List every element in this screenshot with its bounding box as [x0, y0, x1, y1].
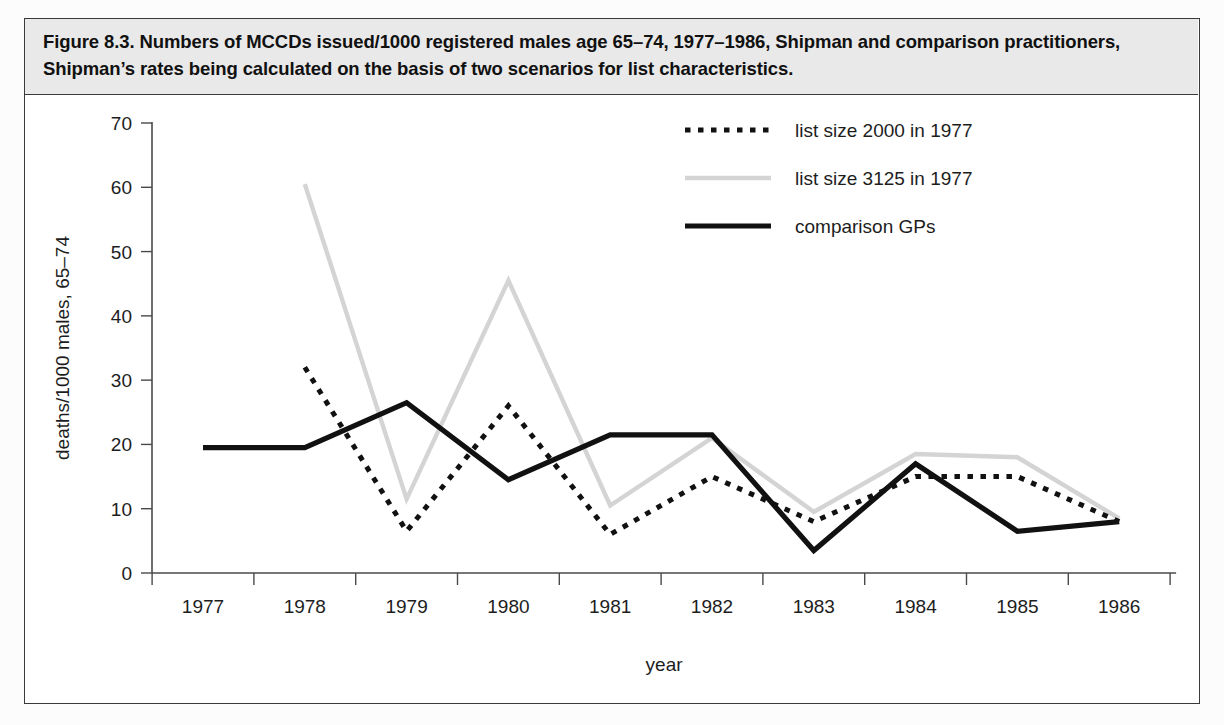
y-axis-tick-label: 30 — [111, 370, 132, 391]
x-axis-tick-label: 1979 — [385, 596, 427, 617]
x-axis-tick-label: 1986 — [1098, 596, 1140, 617]
y-axis-tick-label: 10 — [111, 499, 132, 520]
legend-label: list size 3125 in 1977 — [795, 168, 972, 189]
x-axis-tick-label: 1977 — [182, 596, 224, 617]
x-axis-tick-label: 1978 — [284, 596, 326, 617]
figure-page: Figure 8.3. Numbers of MCCDs issued/1000… — [0, 0, 1224, 725]
x-axis-tick-label: 1983 — [793, 596, 835, 617]
line-chart: 0102030405060701977197819791980198119821… — [25, 96, 1198, 703]
series-line — [305, 184, 1119, 518]
x-axis-tick-label: 1984 — [894, 596, 937, 617]
legend-label: list size 2000 in 1977 — [795, 120, 972, 141]
x-axis-tick-label: 1985 — [996, 596, 1038, 617]
x-axis-tick-label: 1982 — [691, 596, 733, 617]
y-axis-tick-label: 70 — [111, 113, 132, 134]
x-axis-title: year — [646, 654, 684, 675]
y-axis-tick-label: 50 — [111, 242, 132, 263]
figure-caption-band: Figure 8.3. Numbers of MCCDs issued/1000… — [25, 19, 1198, 95]
y-axis-title: deaths/1000 males, 65–74 — [52, 236, 73, 460]
y-axis-tick-label: 40 — [111, 306, 132, 327]
plot-area: 0102030405060701977197819791980198119821… — [25, 96, 1198, 703]
y-axis-tick-label: 0 — [121, 563, 132, 584]
y-axis-tick-label: 60 — [111, 177, 132, 198]
figure-caption: Figure 8.3. Numbers of MCCDs issued/1000… — [43, 29, 1173, 83]
legend-label: comparison GPs — [795, 216, 935, 237]
x-axis-tick-label: 1980 — [487, 596, 529, 617]
x-axis-tick-label: 1981 — [589, 596, 631, 617]
y-axis-tick-label: 20 — [111, 434, 132, 455]
